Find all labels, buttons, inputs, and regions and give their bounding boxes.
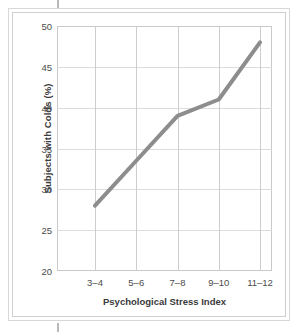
y-axis-tick-label: 30 — [41, 184, 52, 195]
y-axis-tick-label: 45 — [41, 61, 52, 72]
y-axis-tick-label: 25 — [41, 225, 52, 236]
data-series-line — [57, 26, 272, 271]
figure: Subjects with Colds (%) 20253035404550 3… — [13, 13, 285, 316]
x-axis-tick-label: 3–4 — [87, 277, 103, 288]
y-axis-tick-label: 50 — [41, 21, 52, 32]
registration-tick-bottom-icon — [57, 323, 59, 332]
y-axis-tick-label: 35 — [41, 143, 52, 154]
x-axis-tick-label: 7–8 — [170, 277, 186, 288]
y-axis-tick-label: 40 — [41, 102, 52, 113]
y-axis-title: Subjects with Colds (%) — [42, 54, 53, 224]
plot-area: 20253035404550 3–45–67–89–1011–12 — [57, 26, 272, 271]
chart-page: Subjects with Colds (%) 20253035404550 3… — [0, 0, 300, 332]
x-axis-tick-label: 9–10 — [208, 277, 229, 288]
y-axis-tick-label: 20 — [41, 266, 52, 277]
x-axis-title: Psychological Stress Index — [57, 296, 272, 307]
x-axis-tick-label: 5–6 — [128, 277, 144, 288]
x-axis-tick-label: 11–12 — [247, 277, 273, 288]
